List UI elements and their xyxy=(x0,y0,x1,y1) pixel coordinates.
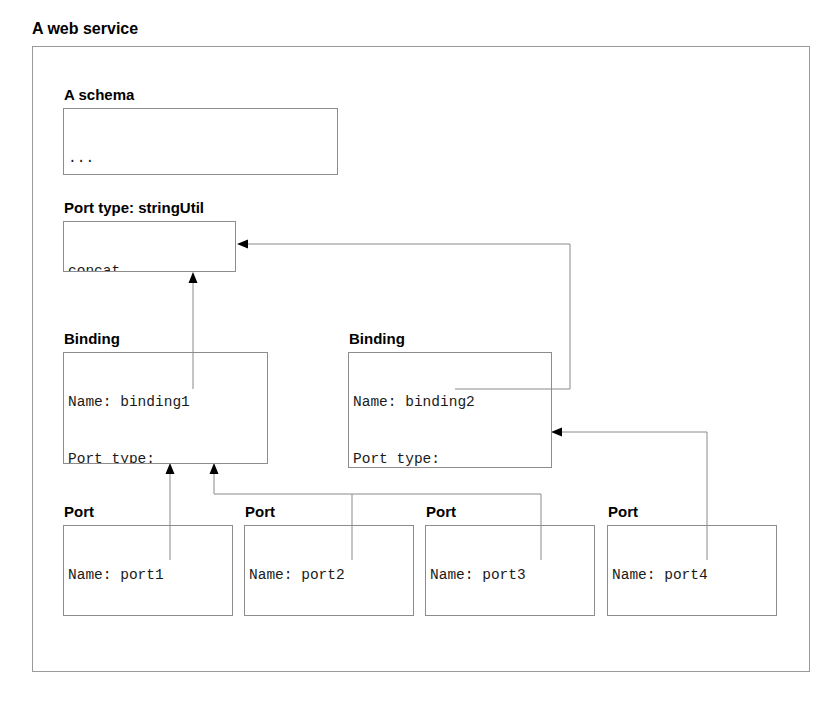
binding1-line-1: Name: binding1 xyxy=(68,393,267,412)
schema-line-1: ... xyxy=(68,149,337,168)
port1-label: Port xyxy=(64,503,94,521)
port1-box: Name: port1 Binding: Endpoint: ... xyxy=(63,525,233,616)
port3-label: Port xyxy=(426,503,456,521)
binding1-line-2: Port type: xyxy=(68,450,267,464)
diagram-title: A web service xyxy=(32,20,138,38)
port-type-line-1: concat xyxy=(68,262,235,272)
port4-label: Port xyxy=(608,503,638,521)
port3-line-1: Name: port3 xyxy=(430,566,594,585)
diagram-canvas: A web service xyxy=(0,0,837,702)
port4-line-1: Name: port4 xyxy=(612,566,776,585)
schema-box: ... xyxy=(63,108,338,175)
port2-label: Port xyxy=(245,503,275,521)
binding2-line-2: Port type: xyxy=(353,450,551,468)
port4-box: Name: port4 Binding: Endpoint: ... xyxy=(607,525,777,616)
port2-box: Name: port2 Binding: Endpoint: ... xyxy=(244,525,414,616)
binding2-line-1: Name: binding2 xyxy=(353,393,551,412)
port-type-label: Port type: stringUtil xyxy=(64,199,204,217)
schema-label: A schema xyxy=(64,86,134,104)
binding1-label: Binding xyxy=(64,330,120,348)
port-type-box: concat ... xyxy=(63,221,236,272)
binding2-box: Name: binding2 Port type: Format: TEXT T… xyxy=(348,352,552,468)
binding2-label: Binding xyxy=(349,330,405,348)
binding1-box: Name: binding1 Port type: Format: SOAP T… xyxy=(63,352,268,464)
port1-line-1: Name: port1 xyxy=(68,566,232,585)
diagram-title-text: A web service xyxy=(32,20,138,37)
port3-box: Name: port3 Binding: Endpoint: ... xyxy=(425,525,595,616)
port2-line-1: Name: port2 xyxy=(249,566,413,585)
